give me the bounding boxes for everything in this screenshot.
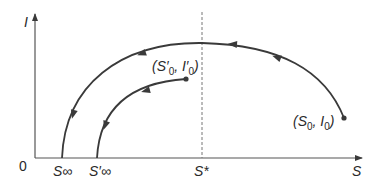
s-infinity-prime-label: S′∞ (89, 163, 111, 179)
inner-start-label: (S′0, I′0) (152, 58, 199, 77)
s-infinity-label: S∞ (53, 163, 72, 179)
s-star-label: S* (194, 163, 209, 179)
y-axis-label: I (24, 14, 28, 30)
direction-arrows (69, 40, 282, 131)
origin-label: 0 (19, 158, 27, 174)
inner-trajectory (97, 79, 186, 158)
arrow-icon (228, 40, 238, 48)
outer-trajectory (62, 43, 344, 158)
diagram-canvas (0, 0, 377, 185)
sir-phase-diagram: I S 0 S∞ S′∞ S* (S′0, I′0) (S0, I0) (0, 0, 377, 185)
start-point-outer (341, 115, 346, 120)
x-axis-label: S (352, 163, 361, 179)
start-point-inner (183, 76, 188, 81)
outer-start-label: (S0, I0) (293, 113, 334, 132)
